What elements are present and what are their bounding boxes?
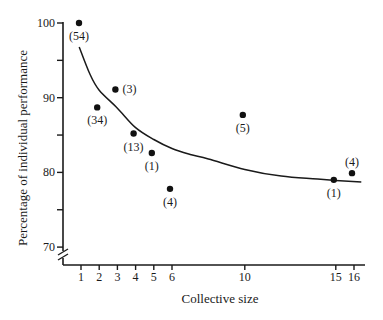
data-point-marker	[94, 104, 100, 110]
data-point-marker	[149, 150, 155, 156]
x-tick-label: 5	[151, 270, 157, 284]
data-point-marker	[76, 20, 82, 26]
data-point-marker	[167, 186, 173, 192]
y-tick-label: 70	[43, 240, 55, 254]
data-point-label: (4)	[345, 155, 359, 169]
y-tick-label: 90	[43, 91, 55, 105]
data-point-marker	[240, 112, 246, 118]
scatter-chart: 100908070123456101516Collective sizePerc…	[0, 0, 383, 320]
data-point-marker	[112, 86, 118, 92]
x-tick-label: 1	[78, 270, 84, 284]
fit-curve-line	[79, 47, 361, 182]
data-point-label: (1)	[327, 186, 341, 200]
data-point-label: (5)	[236, 121, 250, 135]
data-point-marker	[349, 170, 355, 176]
x-tick-label: 2	[96, 270, 102, 284]
data-point-label: (4)	[163, 195, 177, 209]
data-point-label: (1)	[145, 159, 159, 173]
x-tick-label: 10	[239, 270, 251, 284]
y-tick-label: 80	[43, 165, 55, 179]
x-tick-label: 16	[348, 270, 360, 284]
data-point-label: (54)	[69, 29, 89, 43]
data-point-group: (1)	[145, 150, 159, 173]
data-point-group: (4)	[163, 186, 177, 209]
data-point-group: (54)	[69, 20, 89, 43]
data-point-marker	[130, 130, 136, 136]
data-point-group: (4)	[345, 155, 359, 176]
data-point-label: (34)	[87, 113, 107, 127]
y-tick-label: 100	[37, 16, 55, 30]
data-point-label: (3)	[122, 82, 136, 96]
data-point-group: (5)	[236, 112, 250, 135]
data-point-group: (34)	[87, 104, 107, 127]
x-tick-label: 6	[169, 270, 175, 284]
data-point-label: (13)	[124, 140, 144, 154]
data-point-group: (3)	[112, 82, 136, 96]
chart-canvas: 100908070123456101516Collective sizePerc…	[0, 0, 383, 320]
x-tick-label: 4	[133, 270, 139, 284]
data-point-group: (13)	[124, 130, 144, 153]
x-tick-label: 3	[114, 270, 120, 284]
y-axis-title: Percentage of individual performance	[15, 50, 30, 246]
x-tick-label: 15	[330, 270, 342, 284]
x-axis-title: Collective size	[182, 291, 259, 306]
data-point-marker	[331, 177, 337, 183]
